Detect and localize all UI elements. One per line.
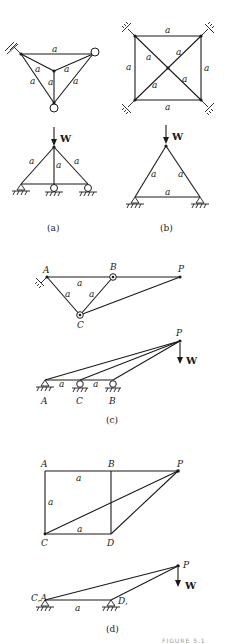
figure-footer-text: FIGURE 5.1 — [162, 637, 206, 644]
roller-support-icon — [45, 185, 63, 197]
node-label-d: D, — [117, 596, 128, 606]
panel-b-bottom-truss: W a a a (b) — [126, 125, 209, 233]
fixed-support-icon — [201, 22, 214, 36]
member-label: a — [178, 169, 183, 179]
member-label: a — [176, 47, 181, 57]
roller-support-icon — [105, 381, 121, 392]
member-label: a — [48, 497, 53, 507]
member-label: a — [74, 156, 79, 166]
node-label-a: A — [40, 459, 48, 469]
member-label: a — [29, 156, 34, 166]
member-label: a — [64, 64, 69, 74]
pin-support-icon — [12, 184, 30, 195]
member-label: a — [165, 102, 170, 112]
member-label: a — [146, 52, 151, 62]
member-label: a — [73, 76, 78, 86]
panel-c-bottom-truss: W P a a A C B (c) — [36, 328, 198, 425]
panel-b-top-truss: a a a a a a a a — [122, 22, 214, 115]
node-label-ca: C,A — [31, 593, 47, 603]
fixed-support-icon — [122, 22, 135, 36]
panel-d-top-truss: A B P C D a a a — [40, 459, 184, 548]
node-label-b: B — [107, 459, 115, 469]
member-label: a — [48, 77, 53, 87]
node-label-b: B — [109, 262, 117, 272]
fixed-support-icon — [201, 100, 214, 115]
node-label-p: P — [176, 459, 184, 469]
member-label: a — [76, 473, 81, 483]
panel-caption: (c) — [106, 415, 118, 425]
member-label: a — [52, 44, 57, 54]
fixed-support-icon — [5, 42, 21, 54]
panel-c-top-truss: A B P C a a a — [35, 262, 185, 330]
node-label-c: C — [41, 538, 48, 548]
load-label: W — [59, 133, 72, 144]
panel-a-top-truss: a a a a a a — [5, 42, 99, 112]
panel-a-bottom-truss: W a a a (a) — [12, 127, 97, 233]
load-arrow-icon — [175, 580, 181, 587]
node-label-b: B — [108, 396, 116, 406]
load-label: W — [171, 131, 184, 142]
truss-figure: a a a a a a — [0, 0, 230, 644]
node-label-c: C — [76, 396, 83, 406]
panel-d-bottom-truss: W P C,A D, a (d) — [31, 560, 197, 634]
member-label: a — [77, 278, 82, 288]
member-label: a — [30, 76, 35, 86]
member-label: a — [89, 289, 94, 299]
member-label: a — [126, 62, 131, 72]
load-arrow-icon — [163, 137, 169, 144]
member-label: a — [56, 160, 61, 170]
member-label: a — [182, 74, 187, 84]
member-label: a — [93, 379, 98, 389]
member-label: a — [77, 524, 82, 534]
load-label: W — [184, 580, 197, 591]
node-label-p: P — [182, 560, 190, 570]
node-label-a: A — [40, 396, 48, 406]
pin-support-icon — [126, 197, 144, 208]
fixed-support-icon — [35, 277, 47, 288]
pin-support-icon — [191, 197, 209, 208]
load-label: W — [185, 355, 198, 366]
member-label: a — [204, 63, 209, 73]
member-label: a — [35, 64, 40, 74]
panel-caption: (a) — [47, 223, 59, 233]
member-label: a — [65, 289, 70, 299]
pin-support-icon — [36, 380, 54, 391]
load-arrow-icon — [51, 139, 57, 146]
member-label: a — [165, 187, 170, 197]
panel-caption: (b) — [160, 223, 173, 233]
member-label: a — [152, 80, 157, 90]
member-label: a — [165, 25, 170, 35]
roller-support-icon — [72, 381, 88, 392]
member-label: a — [151, 169, 156, 179]
node-label-d: D — [106, 538, 114, 548]
roller-support-icon — [79, 185, 97, 197]
member-label: a — [75, 603, 80, 613]
node-label-c: C — [77, 320, 84, 330]
member-label: a — [59, 379, 64, 389]
node-label-p: P — [175, 328, 183, 338]
node-label-a: A — [42, 265, 50, 275]
panel-caption: (d) — [106, 624, 119, 634]
fixed-support-icon — [122, 100, 135, 114]
load-arrow-icon — [177, 357, 183, 364]
node-label-p: P — [177, 264, 185, 274]
